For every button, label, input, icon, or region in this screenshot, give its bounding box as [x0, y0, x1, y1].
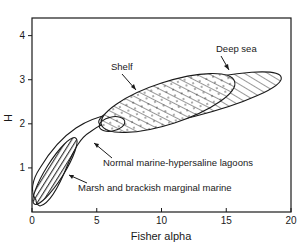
- y-tick-label: 4: [19, 30, 25, 41]
- y-axis-label: H: [2, 114, 14, 122]
- x-tick-label: 20: [285, 215, 297, 226]
- y-tick-label: 1: [19, 162, 25, 173]
- y-tick-label: 3: [19, 74, 25, 85]
- y-tick-labels: 1234: [19, 30, 25, 173]
- svg-text:Deep sea: Deep sea: [216, 43, 257, 54]
- svg-text:Normal marine-hypersaline lago: Normal marine-hypersaline lagoons: [103, 157, 253, 168]
- x-tick-label: 10: [156, 215, 168, 226]
- y-tick-label: 2: [19, 118, 25, 129]
- svg-text:Marsh and brackish marginal ma: Marsh and brackish marginal marine: [78, 182, 232, 193]
- x-tick-label: 0: [29, 215, 35, 226]
- x-tick-labels: 05101520: [29, 215, 297, 226]
- x-axis-label: Fisher alpha: [131, 230, 192, 242]
- fisher-alpha-vs-h-chart: 05101520 1234 Fisher alpha H Shelf Deep …: [0, 0, 308, 249]
- svg-text:Shelf: Shelf: [111, 61, 133, 72]
- x-tick-label: 15: [221, 215, 233, 226]
- x-tick-label: 5: [94, 215, 100, 226]
